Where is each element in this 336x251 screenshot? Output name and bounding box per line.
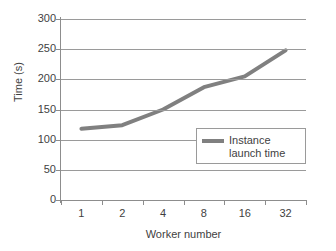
legend-label-line-1: Instance — [229, 134, 285, 147]
x-axis-tick-label: 1 — [61, 207, 101, 219]
x-axis-tick-labels: 12481632 — [0, 0, 336, 251]
legend-color-swatch — [202, 139, 224, 143]
legend-label: Instance launch time — [229, 134, 285, 160]
x-axis-tick-label: 32 — [266, 207, 306, 219]
x-axis-title: Worker number — [61, 228, 306, 240]
legend: Instance launch time — [196, 128, 306, 164]
legend-label-line-2: launch time — [229, 147, 285, 160]
x-axis-tick-label: 2 — [102, 207, 142, 219]
x-axis-tick-label: 8 — [184, 207, 224, 219]
x-axis-tick-label: 4 — [143, 207, 183, 219]
x-axis-tick-label: 16 — [225, 207, 265, 219]
line-chart: Time (s) 050100150200250300 12481632 Wor… — [0, 0, 336, 251]
